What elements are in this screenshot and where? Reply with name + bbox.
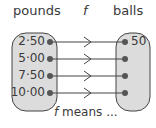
domain-dot (47, 90, 53, 96)
caption-text: means ... (58, 105, 117, 119)
domain-value: 10·00 (5, 85, 45, 99)
codomain-dot (122, 73, 128, 79)
domain-value: 2·50 (5, 34, 45, 48)
codomain-dot (122, 39, 128, 45)
domain-value: 5·00 (5, 51, 45, 65)
codomain-value: 50 (131, 34, 146, 48)
codomain-dot (122, 56, 128, 62)
domain-dot (47, 56, 53, 62)
domain-value: 7·50 (5, 68, 45, 82)
codomain-dot (122, 90, 128, 96)
domain-dot (47, 39, 53, 45)
caption: f means ... (54, 105, 118, 119)
domain-dot (47, 73, 53, 79)
